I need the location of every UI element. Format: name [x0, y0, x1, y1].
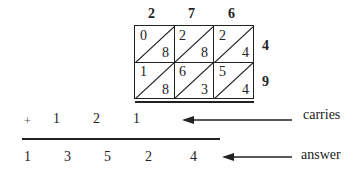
- grid-underline: [135, 101, 254, 103]
- multiplicand-digit: 7: [188, 6, 195, 22]
- cell-ones: 8: [201, 45, 208, 61]
- cell-tens: 5: [219, 64, 226, 80]
- carry-digit: 1: [133, 111, 140, 127]
- cell-ones: 3: [201, 82, 208, 98]
- cell-tens: 1: [140, 64, 147, 80]
- lattice-cell: 2 4: [214, 26, 254, 63]
- cell-tens: 2: [179, 28, 186, 44]
- carry-digit: 1: [53, 111, 60, 127]
- cell-ones: 4: [242, 45, 249, 61]
- cell-ones: 4: [242, 82, 249, 98]
- answer-digit: 4: [190, 149, 197, 165]
- carries-arrow-icon: [182, 113, 294, 127]
- lattice-grid: 0 8 2 8 2 4 1 8 6 3 5 4: [134, 25, 254, 99]
- lattice-cell: 0 8: [135, 26, 175, 63]
- cell-ones: 8: [162, 82, 169, 98]
- answer-digit: 1: [24, 149, 31, 165]
- carry-digit: 2: [93, 111, 100, 127]
- cell-tens: 6: [179, 64, 186, 80]
- lattice-cell: 5 4: [214, 62, 254, 99]
- multiplicand-digit: 6: [228, 6, 235, 22]
- lattice-cell: 1 8: [135, 62, 175, 99]
- multiplicand-digit: 2: [148, 6, 155, 22]
- multiplier-digit: 9: [262, 74, 269, 90]
- plus-sign: +: [24, 114, 31, 129]
- cell-tens: 2: [219, 28, 226, 44]
- carries-label: carries: [303, 107, 340, 123]
- multiplier-digit: 4: [262, 38, 269, 54]
- answer-digit: 2: [145, 149, 152, 165]
- cell-tens: 0: [140, 28, 147, 44]
- answer-digit: 3: [64, 149, 71, 165]
- lattice-cell: 2 8: [174, 26, 214, 63]
- cell-ones: 8: [162, 45, 169, 61]
- answer-digit: 5: [104, 149, 111, 165]
- answer-arrow-icon: [222, 150, 294, 164]
- answer-label: answer: [301, 147, 341, 163]
- sum-line: [22, 138, 220, 140]
- lattice-cell: 6 3: [174, 62, 214, 99]
